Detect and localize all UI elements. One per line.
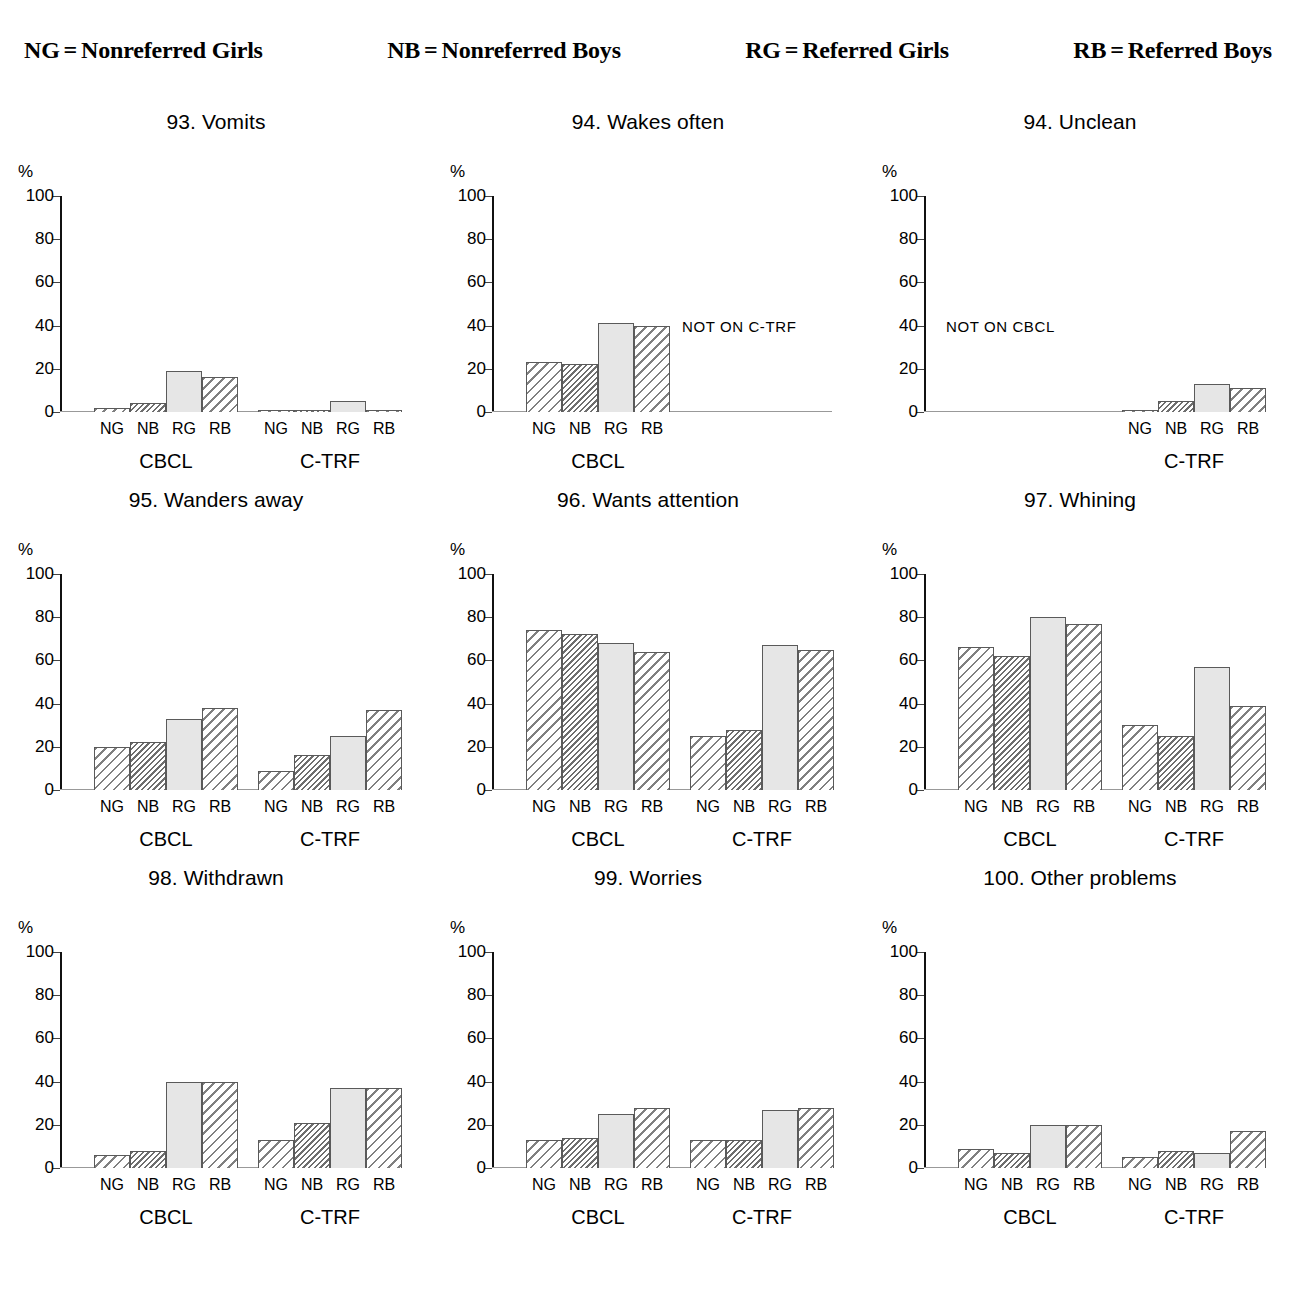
y-axis-tick-label: 0: [878, 780, 918, 800]
x-axis-category-label: RG: [1200, 798, 1224, 816]
plot-area: 100806040200NGNBRGRBCBCLNGNBRGRBC-TRF: [60, 196, 400, 412]
y-axis: [924, 952, 926, 1168]
chart-title: 93. Vomits: [0, 110, 432, 134]
legend-entry-nb: NB=Nonreferred Boys: [387, 37, 621, 64]
bar-ctrf-ng: [690, 1140, 726, 1168]
bar-cbcl-rg: [598, 1114, 634, 1168]
x-axis-group-label: C-TRF: [1164, 828, 1224, 851]
bar-cbcl-rg: [166, 1082, 202, 1168]
bar-ctrf-rg: [1194, 667, 1230, 790]
y-axis-unit-label: %: [18, 918, 33, 938]
y-axis-tick-label: 40: [14, 694, 54, 714]
bar-cbcl-nb: [130, 403, 166, 412]
y-axis: [924, 196, 926, 412]
y-axis-tick-label: 60: [446, 1028, 486, 1048]
x-axis-category-label: RB: [1237, 1176, 1259, 1194]
x-axis-category-label: NB: [1165, 1176, 1187, 1194]
y-axis-tick-label: 80: [878, 229, 918, 249]
bar-ctrf-rb: [1230, 706, 1266, 790]
y-axis-unit-label: %: [450, 540, 465, 560]
y-axis-tick-label: 20: [446, 359, 486, 379]
x-axis-category-label: NB: [569, 1176, 591, 1194]
bar-cbcl-rb: [202, 377, 238, 412]
bar-cbcl-ng: [526, 630, 562, 790]
y-axis-tick-label: 40: [14, 316, 54, 336]
y-axis: [492, 196, 494, 412]
bar-ctrf-rg: [330, 1088, 366, 1168]
y-axis-tick-label: 100: [878, 942, 918, 962]
plot-area: 100806040200NGNBRGRBCBCLNGNBRGRBC-TRF: [60, 952, 400, 1168]
y-axis-tick-label: 0: [446, 1158, 486, 1178]
chart-panel: 95. Wanders away%100806040200NGNBRGRBCBC…: [0, 478, 432, 856]
bar-cbcl-ng: [526, 1140, 562, 1168]
x-axis-category-label: RG: [768, 1176, 792, 1194]
y-axis-tick-label: 0: [446, 780, 486, 800]
y-axis-unit-label: %: [882, 918, 897, 938]
x-axis-category-label: NG: [264, 798, 288, 816]
bar-cbcl-rb: [634, 326, 670, 412]
plot-area: 100806040200NGNBRGRBCBCLNGNBRGRBC-TRF: [924, 952, 1264, 1168]
y-axis-unit-label: %: [450, 918, 465, 938]
x-axis-category-label: RG: [604, 798, 628, 816]
legend-abbr-nb: NB: [387, 37, 420, 63]
y-axis-tick-label: 0: [14, 402, 54, 422]
y-axis: [60, 196, 62, 412]
legend-entry-ng: NG=Nonreferred Girls: [24, 37, 263, 64]
x-axis-category-label: RB: [641, 420, 663, 438]
chart-title: 96. Wants attention: [432, 488, 864, 512]
x-axis-category-label: RB: [373, 798, 395, 816]
bar-cbcl-ng: [958, 647, 994, 790]
x-axis-category-label: NG: [264, 1176, 288, 1194]
bar-ctrf-nb: [1158, 1151, 1194, 1168]
y-axis-tick-label: 0: [878, 402, 918, 422]
y-axis-tick-label: 80: [878, 985, 918, 1005]
y-axis: [492, 574, 494, 790]
bar-ctrf-ng: [690, 736, 726, 790]
bar-ctrf-rb: [366, 1088, 402, 1168]
y-axis: [924, 574, 926, 790]
legend-entry-rg: RG=Referred Girls: [745, 37, 949, 64]
x-axis-category-label: NB: [1001, 798, 1023, 816]
bar-cbcl-nb: [562, 364, 598, 412]
x-axis-category-label: RB: [641, 798, 663, 816]
bar-ctrf-ng: [258, 410, 294, 412]
bar-cbcl-rg: [1030, 1125, 1066, 1168]
bar-cbcl-nb: [130, 742, 166, 790]
bar-cbcl-nb: [994, 1153, 1030, 1168]
chart-note: NOT ON CBCL: [946, 318, 1055, 335]
y-axis-tick-label: 80: [14, 607, 54, 627]
chart-title: 99. Worries: [432, 866, 864, 890]
y-axis-tick-label: 100: [878, 564, 918, 584]
x-axis-group-label: CBCL: [1003, 828, 1056, 851]
x-axis-category-label: RG: [604, 420, 628, 438]
bar-cbcl-nb: [562, 634, 598, 790]
y-axis-tick-label: 80: [446, 607, 486, 627]
chart-title: 94. Unclean: [864, 110, 1296, 134]
x-axis-group-label: CBCL: [139, 450, 192, 473]
x-axis-category-label: RG: [604, 1176, 628, 1194]
bar-cbcl-rb: [202, 708, 238, 790]
x-axis-category-label: NB: [301, 798, 323, 816]
x-axis-group-label: C-TRF: [732, 828, 792, 851]
plot-area: 100806040200NGNBRGRBC-TRFNOT ON CBCL: [924, 196, 1264, 412]
y-axis-tick-label: 20: [14, 359, 54, 379]
y-axis-tick-label: 60: [878, 650, 918, 670]
bar-ctrf-nb: [294, 1123, 330, 1168]
bar-cbcl-rb: [1066, 1125, 1102, 1168]
x-axis-category-label: RB: [1073, 798, 1095, 816]
legend-bar: NG=Nonreferred Girls NB=Nonreferred Boys…: [0, 30, 1296, 70]
x-axis-category-label: NG: [100, 1176, 124, 1194]
bar-ctrf-rb: [1230, 1131, 1266, 1168]
x-axis-category-label: NB: [1165, 798, 1187, 816]
y-axis-tick-label: 20: [14, 1115, 54, 1135]
x-axis-category-label: NB: [569, 420, 591, 438]
bar-ctrf-ng: [258, 1140, 294, 1168]
y-axis: [60, 574, 62, 790]
chart-title: 98. Withdrawn: [0, 866, 432, 890]
x-axis-category-label: NG: [532, 798, 556, 816]
x-axis-category-label: RB: [373, 420, 395, 438]
bar-cbcl-ng: [958, 1149, 994, 1168]
bar-cbcl-rg: [166, 371, 202, 412]
bar-ctrf-rb: [798, 1108, 834, 1168]
x-axis-category-label: RG: [1036, 1176, 1060, 1194]
